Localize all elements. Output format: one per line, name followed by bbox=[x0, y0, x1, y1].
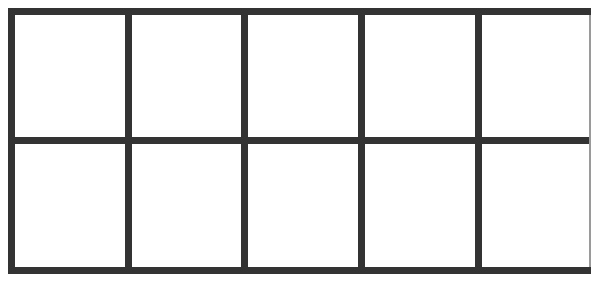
grid-line-middle bbox=[8, 137, 591, 144]
grid-cell bbox=[482, 144, 589, 267]
grid-line-col-2 bbox=[241, 8, 248, 274]
grid-cell bbox=[132, 144, 241, 267]
grid-line-left bbox=[8, 8, 15, 274]
grid-cell bbox=[482, 15, 589, 137]
grid-cell bbox=[365, 15, 475, 137]
grid-line-col-1 bbox=[125, 8, 132, 274]
grid-cell bbox=[132, 15, 241, 137]
empty-grid-diagram bbox=[0, 0, 591, 281]
grid-line-top bbox=[8, 8, 591, 15]
grid-cell bbox=[15, 144, 125, 267]
grid-cell bbox=[248, 15, 358, 137]
grid-line-col-4 bbox=[475, 8, 482, 274]
grid-cell bbox=[15, 15, 125, 137]
grid-cell bbox=[248, 144, 358, 267]
grid-line-col-3 bbox=[358, 8, 365, 274]
grid-cell bbox=[365, 144, 475, 267]
grid-line-bottom bbox=[8, 267, 591, 274]
